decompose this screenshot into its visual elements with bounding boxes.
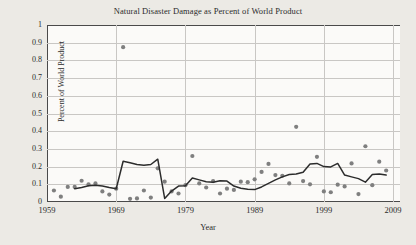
scatter-point bbox=[356, 192, 360, 196]
scatter-point bbox=[163, 180, 167, 184]
y-tick-label: 0.6 bbox=[2, 92, 42, 100]
y-tick-label: 1 bbox=[2, 21, 42, 29]
scatter-point bbox=[128, 197, 132, 201]
scatter-point bbox=[176, 191, 180, 195]
scatter-point bbox=[80, 179, 84, 183]
y-tick-label: 0 bbox=[2, 198, 42, 206]
scatter-point bbox=[107, 192, 111, 196]
x-tick-label: 1969 bbox=[96, 206, 136, 215]
x-tick-label: 1979 bbox=[165, 206, 205, 215]
y-tick-label: 0.8 bbox=[2, 56, 42, 64]
scatter-point bbox=[66, 185, 70, 189]
x-tick-label: 1989 bbox=[235, 206, 275, 215]
scatter-point bbox=[377, 160, 381, 164]
scatter-point bbox=[225, 187, 229, 191]
scatter-point bbox=[197, 181, 201, 185]
scatter-point bbox=[259, 170, 263, 174]
y-tick-label: 0.5 bbox=[2, 110, 42, 118]
scatter-point bbox=[363, 144, 367, 148]
scatter-point bbox=[370, 183, 374, 187]
scatter-point bbox=[308, 182, 312, 186]
scatter-point bbox=[336, 183, 340, 187]
scatter-point bbox=[246, 180, 250, 184]
y-axis-label: Percent of World Product bbox=[57, 22, 66, 142]
y-tick-label: 0.1 bbox=[2, 180, 42, 188]
chart-page: Natural Disaster Damage as Percent of Wo… bbox=[0, 0, 416, 245]
scatter-point bbox=[253, 177, 257, 181]
scatter-point bbox=[142, 188, 146, 192]
trend-line bbox=[75, 159, 386, 198]
scatter-point bbox=[329, 190, 333, 194]
scatter-point bbox=[322, 189, 326, 193]
y-tick-label: 0.9 bbox=[2, 39, 42, 47]
scatter-point bbox=[349, 161, 353, 165]
plot-wrapper: 10.90.80.70.60.50.40.30.20.10 1959196919… bbox=[47, 25, 400, 202]
x-tick-label: 1959 bbox=[27, 206, 67, 215]
x-tick-label: 2009 bbox=[373, 206, 413, 215]
y-tick-label: 0.3 bbox=[2, 145, 42, 153]
scatter-point bbox=[301, 179, 305, 183]
scatter-point bbox=[343, 184, 347, 188]
scatter-point bbox=[384, 168, 388, 172]
x-axis-label: Year bbox=[0, 222, 416, 232]
scatter-point bbox=[100, 189, 104, 193]
scatter-point bbox=[294, 125, 298, 129]
x-tick-label: 1999 bbox=[304, 206, 344, 215]
scatter-point bbox=[239, 180, 243, 184]
scatter-point bbox=[273, 173, 277, 177]
scatter-point bbox=[52, 188, 56, 192]
chart-title: Natural Disaster Damage as Percent of Wo… bbox=[0, 6, 416, 16]
scatter-point bbox=[190, 154, 194, 158]
scatter-point bbox=[59, 195, 63, 199]
scatter-point bbox=[287, 181, 291, 185]
scatter-point bbox=[121, 45, 125, 49]
y-tick-label: 0.4 bbox=[2, 127, 42, 135]
scatter-point bbox=[135, 196, 139, 200]
y-tick-label: 0.7 bbox=[2, 74, 42, 82]
chart-canvas bbox=[47, 25, 400, 202]
scatter-point bbox=[204, 185, 208, 189]
scatter-point bbox=[218, 191, 222, 195]
scatter-point bbox=[232, 188, 236, 192]
scatter-point bbox=[315, 155, 319, 159]
scatter-point bbox=[266, 162, 270, 166]
y-tick-label: 0.2 bbox=[2, 163, 42, 171]
scatter-point bbox=[149, 195, 153, 199]
